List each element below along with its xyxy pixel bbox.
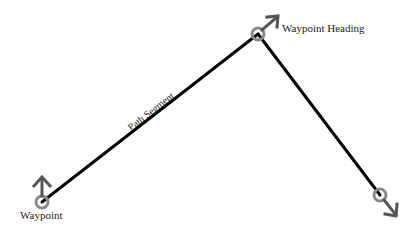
heading-arrow-up-right-icon	[262, 16, 278, 30]
path-segment-2	[258, 34, 380, 195]
path-segment-label: Path Segment	[125, 90, 176, 133]
heading-arrow-up-icon	[34, 177, 50, 196]
heading-arrow-down-right-icon	[384, 200, 397, 216]
waypoint-label: Waypoint	[20, 209, 63, 221]
waypoint-heading-label: Waypoint Heading	[282, 22, 365, 34]
waypoint-diagram: Waypoint Waypoint Heading Path Segment	[0, 0, 420, 234]
diagram-svg: Waypoint Waypoint Heading Path Segment	[0, 0, 420, 234]
path	[42, 34, 380, 202]
